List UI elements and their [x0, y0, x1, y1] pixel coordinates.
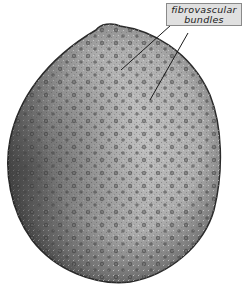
- label-line-2: bundles: [167, 15, 241, 25]
- stem-cross-section-figure: [0, 0, 246, 284]
- fibrovascular-bundles-label: fibrovascular bundles: [166, 3, 242, 26]
- stem-section: [0, 0, 246, 284]
